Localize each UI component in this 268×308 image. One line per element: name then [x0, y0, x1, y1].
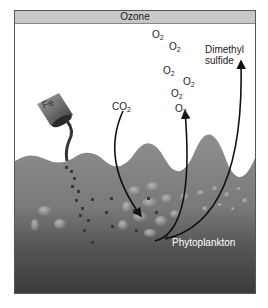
o2-label: O2 [175, 103, 187, 117]
diagram-frame: Ozone Fe CO2 O2 O2 O2 O2 O2 O2 Dimethyl … [14, 10, 256, 294]
o2-label: O2 [171, 88, 183, 102]
phytoplankton-label: Phytoplankton [172, 237, 235, 248]
ozone-layer-bar: Ozone [15, 11, 255, 24]
co2-label: CO2 [112, 101, 131, 115]
dimethyl-sulfide-label: Dimethyl sulfide [205, 44, 244, 66]
o2-label: O2 [163, 65, 175, 79]
o2-label: O2 [169, 41, 181, 55]
o2-label: O2 [183, 76, 195, 90]
o2-label: O2 [152, 29, 164, 43]
